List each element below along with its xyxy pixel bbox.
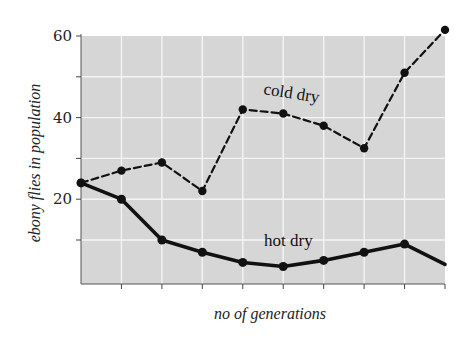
data-point <box>117 166 125 174</box>
data-point <box>198 187 206 195</box>
data-point <box>441 26 449 34</box>
y-tick-label: 20 <box>53 190 72 208</box>
line-chart: 204060 cold dry hot dry no of generation… <box>0 0 465 344</box>
data-point <box>238 258 247 267</box>
data-point <box>158 158 166 166</box>
data-point <box>360 248 369 257</box>
series-label-hot-dry: hot dry <box>264 231 313 250</box>
data-point <box>400 240 409 249</box>
data-point <box>77 178 86 187</box>
data-point <box>279 262 288 271</box>
data-point <box>319 122 327 130</box>
data-point <box>117 195 126 204</box>
data-point <box>157 236 166 245</box>
y-axis-ticks: 204060 <box>53 27 81 240</box>
data-point <box>279 109 287 117</box>
y-tick-label: 60 <box>53 27 72 45</box>
y-tick-label: 40 <box>53 109 72 127</box>
x-axis-label: no of generations <box>214 305 326 323</box>
data-point <box>319 256 328 265</box>
data-point <box>198 248 207 257</box>
y-axis-label: ebony flies in population <box>26 84 44 243</box>
data-point <box>360 144 368 152</box>
data-point <box>400 69 408 77</box>
data-point <box>239 105 247 113</box>
